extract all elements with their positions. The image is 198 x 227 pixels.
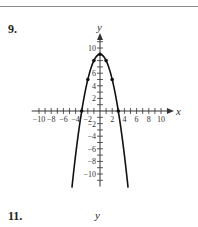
y-tick-label: 2: [92, 94, 96, 103]
y-tick-label: −6: [87, 145, 96, 154]
y-tick-label: −4: [87, 132, 96, 141]
x-tick-label: −4: [71, 115, 80, 124]
parabola-chart: xy−10−8−6−4−224681010642−2−4−6−8−10: [0, 0, 198, 227]
y-tick-label: 4: [92, 82, 96, 91]
y-tick-label: −10: [83, 170, 96, 179]
y-tick-label: −2: [87, 120, 96, 129]
y-axis-label-11: y: [95, 209, 100, 221]
x-tick-label: −6: [59, 115, 68, 124]
x-tick-label: −10: [33, 115, 46, 124]
y-axis-arrow-icon: [97, 33, 103, 40]
x-tick-label: 10: [157, 115, 165, 124]
data-point: [117, 109, 121, 113]
data-point: [80, 109, 84, 113]
exercise-number-11: 11.: [8, 209, 22, 224]
x-tick-label: 4: [122, 115, 126, 124]
x-tick-label: −8: [47, 115, 56, 124]
data-point: [98, 53, 102, 57]
data-point: [104, 59, 108, 63]
data-point: [92, 59, 96, 63]
x-axis-label: x: [175, 105, 181, 117]
x-axis-arrow-icon: [167, 108, 174, 114]
y-tick-label: 6: [92, 69, 96, 78]
y-tick-label: 10: [88, 44, 96, 53]
x-tick-label: 2: [110, 115, 114, 124]
x-tick-label: 8: [147, 115, 151, 124]
x-tick-label: 6: [135, 115, 139, 124]
data-point: [110, 78, 114, 82]
data-point: [86, 78, 90, 82]
y-axis-label: y: [96, 21, 102, 33]
y-tick-label: −8: [87, 157, 96, 166]
